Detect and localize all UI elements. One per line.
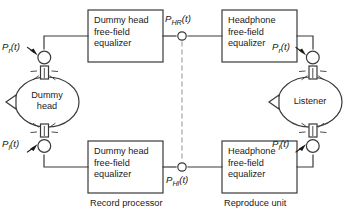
caption-record-processor: Record processor — [90, 198, 163, 208]
signal-label-out-left: Pl(t) — [272, 138, 289, 152]
listener-head-label: Listener — [283, 96, 337, 107]
signal-label-source-left: Pl(t) — [2, 138, 19, 152]
signal-label-mid-right: PHR(t) — [165, 13, 191, 27]
node-mid-right — [178, 32, 186, 40]
wire-headphone-eq-right-to-listener — [297, 36, 313, 49]
caption-reproduce-unit: Reproduce unit — [224, 198, 286, 208]
wire-dummy-mic-left-to-eq — [44, 155, 88, 167]
signal-arg: (t) — [182, 13, 191, 24]
signal-arg: (t) — [10, 138, 19, 149]
signal-label-source-right: Pr(t) — [2, 41, 20, 55]
dummy-head-nose-icon — [6, 95, 16, 109]
dummy-head-label-line2: head — [22, 101, 72, 112]
node-mid-left — [178, 163, 186, 171]
wire-headphone-eq-left-to-listener — [297, 155, 313, 167]
listener-headphone-left-icon — [306, 140, 319, 153]
signal-sub: HR — [171, 18, 181, 27]
dummy-head-mic-right-icon — [38, 51, 51, 64]
dummy-head-label-line1: Dummy — [22, 90, 72, 101]
signal-arg: (t) — [280, 138, 289, 149]
block-dummy-head-eq-right — [88, 10, 163, 62]
signal-label-mid-left: PHl(t) — [166, 174, 188, 188]
block-dummy-head-eq-left — [88, 141, 163, 193]
signal-arg: (t) — [281, 41, 290, 52]
signal-arg: (t) — [11, 41, 20, 52]
dummy-head-label: Dummy head — [22, 90, 72, 112]
dummy-head-mic-left-icon — [38, 140, 51, 153]
diagram-canvas: Dummy head free-field equalizer Headphon… — [0, 0, 357, 217]
listener-head-label-line1: Listener — [283, 96, 337, 107]
wire-dummy-mic-right-to-eq — [44, 36, 88, 49]
listener-headphone-right-icon — [306, 51, 319, 64]
signal-arg: (t) — [179, 174, 188, 185]
signal-label-out-right: Pr(t) — [272, 41, 290, 55]
listener-head-nose-icon — [269, 95, 279, 109]
